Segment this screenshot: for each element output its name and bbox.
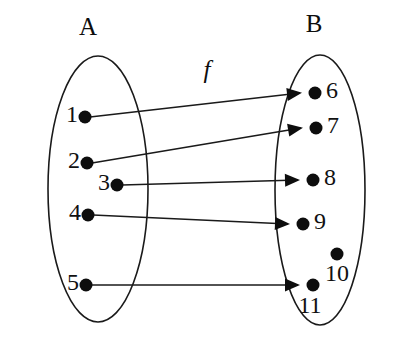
arrow-head-3-to-8 xyxy=(285,174,300,187)
arrow-head-1-to-6 xyxy=(286,88,302,101)
mapping-diagram-canvas: 1234567891011 A B f xyxy=(0,0,395,342)
element-label-1: 1 xyxy=(66,101,78,127)
element-label-8: 8 xyxy=(324,164,336,190)
element-dot-6 xyxy=(309,87,322,100)
element-label-2: 2 xyxy=(68,147,80,173)
set-b-label: B xyxy=(306,10,323,37)
set-captions-layer: A B f xyxy=(79,10,322,83)
element-label-3: 3 xyxy=(98,169,110,195)
element-dot-5 xyxy=(80,279,93,292)
arrow-head-2-to-7 xyxy=(287,124,303,137)
element-dot-3 xyxy=(111,179,124,192)
mapping-arrows-layer xyxy=(90,88,303,291)
element-dot-2 xyxy=(81,157,94,170)
set-a-label: A xyxy=(79,13,97,40)
element-dot-11 xyxy=(307,279,320,292)
arrow-head-4-to-9 xyxy=(275,217,290,230)
element-label-6: 6 xyxy=(326,77,338,103)
element-label-10: 10 xyxy=(325,260,349,286)
element-dot-9 xyxy=(297,218,310,231)
mapping-line-1-to-6 xyxy=(90,93,300,117)
element-label-11: 11 xyxy=(298,292,321,318)
element-dot-8 xyxy=(307,174,320,187)
element-dot-7 xyxy=(310,122,323,135)
function-label-f: f xyxy=(204,56,214,83)
element-dots-layer xyxy=(79,87,344,292)
function-mapping-diagram: 1234567891011 A B f xyxy=(0,0,395,342)
arrow-head-5-to-11 xyxy=(285,279,300,292)
element-labels-layer: 1234567891011 xyxy=(66,77,349,318)
element-label-5: 5 xyxy=(67,269,79,295)
element-label-4: 4 xyxy=(69,199,81,225)
mapping-line-2-to-7 xyxy=(92,128,301,163)
mapping-line-4-to-9 xyxy=(93,215,288,224)
element-label-7: 7 xyxy=(327,112,339,138)
element-dot-1 xyxy=(79,111,92,124)
element-label-9: 9 xyxy=(314,208,326,234)
element-dot-4 xyxy=(82,209,95,222)
